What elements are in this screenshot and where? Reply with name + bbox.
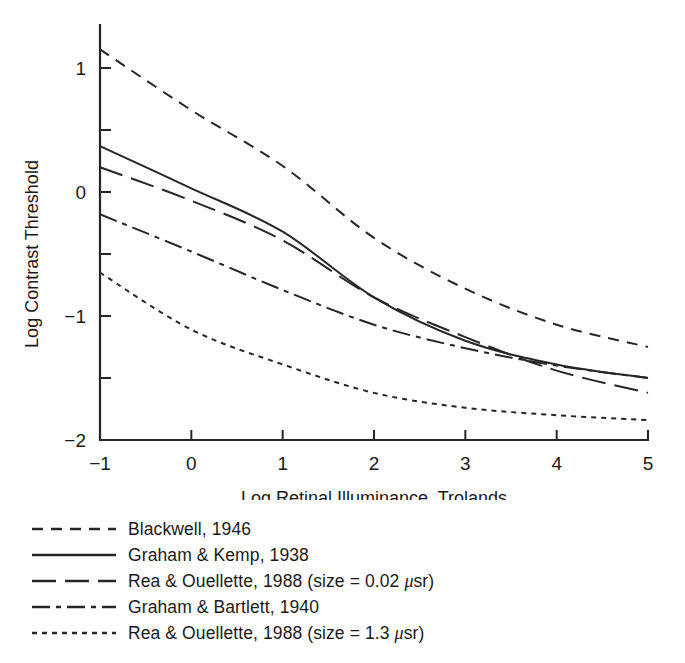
legend-line-sample [30, 571, 118, 591]
x-tick-label: 1 [277, 453, 288, 474]
y-tick-label: 0 [75, 182, 86, 203]
legend-line-sample [30, 623, 118, 643]
legend-label-text: Rea & Ouellette, 1988 (size = 0.02 [128, 571, 404, 591]
axis-labels: 10−1−2−1012345Log Retinal Illuminance, T… [22, 58, 653, 500]
legend-label-unit: sr) [414, 571, 435, 591]
legend-label: Graham & Bartlett, 1940 [128, 597, 319, 618]
data-curve-5 [100, 273, 648, 421]
figure-container: 10−1−2−1012345Log Retinal Illuminance, T… [0, 0, 685, 663]
legend-item: Graham & Kemp, 1938 [30, 542, 670, 568]
legend-line-sample [30, 545, 118, 565]
micro-symbol: μ [404, 571, 413, 591]
legend-label: Graham & Kemp, 1938 [128, 545, 309, 566]
legend-item: Rea & Ouellette, 1988 (size = 0.02 μsr) [30, 568, 670, 594]
x-tick-label: 0 [186, 453, 197, 474]
data-curve-3 [100, 167, 648, 393]
axis-spine [100, 25, 648, 440]
legend-item: Blackwell, 1946 [30, 516, 670, 542]
legend-label-text: Rea & Ouellette, 1988 (size = 1.3 [128, 623, 395, 643]
legend-line-sample [30, 519, 118, 539]
legend-line-sample [30, 597, 118, 617]
x-tick-label: 3 [460, 453, 471, 474]
micro-symbol: μ [395, 623, 404, 643]
x-tick-label: 5 [643, 453, 654, 474]
y-axis-title: Log Contrast Threshold [22, 160, 42, 348]
x-tick-label: −1 [89, 453, 111, 474]
y-tick-label: −2 [64, 430, 86, 451]
axes [100, 25, 648, 440]
data-curve-1 [100, 49, 648, 347]
legend-item: Rea & Ouellette, 1988 (size = 1.3 μsr) [30, 620, 670, 646]
data-curves [100, 49, 648, 420]
x-tick-label: 2 [369, 453, 380, 474]
y-tick-label: 1 [75, 58, 86, 79]
legend-label: Rea & Ouellette, 1988 (size = 1.3 μsr) [128, 623, 424, 644]
x-axis-title: Log Retinal Illuminance, Trolands [241, 488, 507, 500]
line-chart: 10−1−2−1012345Log Retinal Illuminance, T… [0, 0, 685, 500]
legend-item: Graham & Bartlett, 1940 [30, 594, 670, 620]
y-tick-label: −1 [64, 306, 86, 327]
legend-label-unit: sr) [404, 623, 425, 643]
data-curve-2 [100, 146, 648, 378]
chart-legend: Blackwell, 1946Graham & Kemp, 1938Rea & … [30, 516, 670, 646]
x-tick-label: 4 [551, 453, 562, 474]
legend-label: Blackwell, 1946 [128, 519, 251, 540]
legend-label: Rea & Ouellette, 1988 (size = 0.02 μsr) [128, 571, 434, 592]
